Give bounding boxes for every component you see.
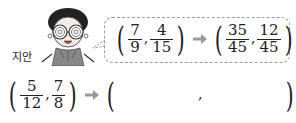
problem-equation: ( 512 , 78 ) ( , ) [6, 78, 296, 112]
fraction: 415 [150, 23, 173, 56]
fraction: 3545 [226, 23, 249, 56]
right-arrow-icon [192, 33, 208, 45]
close-paren: ) [284, 22, 292, 56]
close-paren: ) [177, 22, 185, 56]
fraction: 79 [128, 23, 142, 56]
girl-character-illustration [38, 4, 96, 66]
speaker-name: 지안 [12, 48, 32, 64]
example-equation: ( 79 , 415 ) ( 3545 , 1245 ) [114, 22, 295, 56]
right-arrow-icon [84, 89, 100, 101]
fraction: 78 [52, 79, 66, 112]
open-paren: ( [214, 22, 222, 56]
open-paren: ( [9, 78, 17, 112]
fraction: 512 [20, 79, 43, 112]
close-paren: ) [69, 78, 77, 112]
open-paren: ( [117, 22, 125, 56]
close-paren: ) [286, 78, 294, 112]
open-paren: ( [106, 78, 114, 112]
fraction: 1245 [257, 23, 280, 56]
